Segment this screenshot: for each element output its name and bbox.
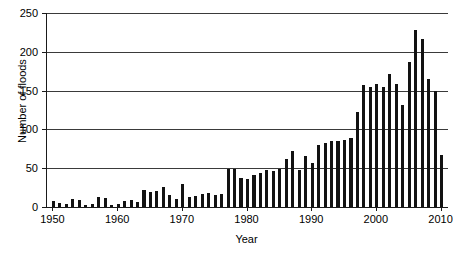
bar-1979 bbox=[239, 178, 242, 207]
bar-1998 bbox=[362, 85, 365, 207]
bar-1954 bbox=[78, 200, 81, 207]
bar-1965 bbox=[149, 192, 152, 207]
bar-1964 bbox=[142, 190, 145, 207]
x-tickmark-1970 bbox=[182, 207, 183, 211]
x-axis-tick-labels: 1950196019701980199020002010 bbox=[46, 207, 447, 227]
y-tick-label-250: 250 bbox=[20, 8, 38, 19]
bar-1975 bbox=[214, 195, 217, 207]
bar-1953 bbox=[71, 199, 74, 207]
x-tickmark-1960 bbox=[117, 207, 118, 211]
bar-2008 bbox=[427, 79, 430, 207]
bar-1984 bbox=[272, 171, 275, 207]
x-tick-label-1970: 1970 bbox=[170, 213, 194, 225]
bar-1996 bbox=[349, 138, 352, 207]
bar-1989 bbox=[304, 156, 307, 207]
plot-area bbox=[46, 13, 448, 207]
y-tick-label-200: 200 bbox=[20, 46, 38, 57]
bar-1993 bbox=[330, 141, 333, 207]
bar-1985 bbox=[278, 169, 281, 207]
bar-2009 bbox=[434, 91, 437, 207]
bar-1986 bbox=[285, 159, 288, 207]
bar-1973 bbox=[201, 194, 204, 207]
x-tickmark-2010 bbox=[441, 207, 442, 211]
bar-1999 bbox=[369, 87, 372, 207]
bar-1981 bbox=[252, 175, 255, 207]
x-tick-label-2000: 2000 bbox=[364, 213, 388, 225]
x-tick-label-1950: 1950 bbox=[40, 213, 64, 225]
bar-1997 bbox=[356, 112, 359, 207]
x-tickmark-1950 bbox=[52, 207, 53, 211]
bar-2010 bbox=[440, 155, 443, 207]
bar-1972 bbox=[194, 196, 197, 207]
x-axis-title: Year bbox=[46, 233, 447, 245]
bar-1958 bbox=[104, 198, 107, 207]
bar-1966 bbox=[155, 191, 158, 207]
bar-1969 bbox=[175, 199, 178, 207]
bar-1988 bbox=[298, 170, 301, 207]
x-tick-label-1990: 1990 bbox=[299, 213, 323, 225]
y-tick-label-50: 50 bbox=[26, 163, 38, 174]
x-tick-label-1980: 1980 bbox=[234, 213, 258, 225]
bar-2002 bbox=[388, 74, 391, 207]
bar-1968 bbox=[168, 195, 171, 207]
bar-2006 bbox=[414, 30, 417, 207]
bar-1971 bbox=[188, 197, 191, 207]
bar-2005 bbox=[408, 62, 411, 207]
bar-1995 bbox=[343, 140, 346, 207]
y-tick-label-0: 0 bbox=[32, 202, 38, 213]
bar-2001 bbox=[382, 87, 385, 207]
bar-1990 bbox=[311, 163, 314, 207]
x-tick-label-2010: 2010 bbox=[428, 213, 452, 225]
bar-1992 bbox=[324, 143, 327, 207]
x-tickmark-2000 bbox=[376, 207, 377, 211]
y-axis-tick-labels: 050100150200250 bbox=[0, 0, 42, 215]
x-tick-label-1960: 1960 bbox=[105, 213, 129, 225]
bar-1983 bbox=[265, 170, 268, 207]
bar-1970 bbox=[181, 184, 184, 207]
bar-1974 bbox=[207, 193, 210, 207]
x-tickmark-1990 bbox=[311, 207, 312, 211]
bar-series bbox=[47, 13, 448, 207]
bar-1978 bbox=[233, 169, 236, 207]
bar-1991 bbox=[317, 145, 320, 207]
bar-1976 bbox=[220, 194, 223, 207]
bar-1982 bbox=[259, 173, 262, 207]
y-tick-label-150: 150 bbox=[20, 85, 38, 96]
y-tick-label-100: 100 bbox=[20, 124, 38, 135]
bar-2004 bbox=[401, 105, 404, 207]
x-tickmark-1980 bbox=[247, 207, 248, 211]
bar-1967 bbox=[162, 187, 165, 207]
bar-1987 bbox=[291, 151, 294, 207]
bar-1957 bbox=[97, 197, 100, 207]
bar-2003 bbox=[395, 84, 398, 207]
bar-1962 bbox=[130, 200, 133, 207]
bar-1980 bbox=[246, 179, 249, 207]
bar-1994 bbox=[336, 141, 339, 207]
bar-1977 bbox=[227, 169, 230, 207]
bar-2000 bbox=[375, 84, 378, 207]
bar-2007 bbox=[421, 39, 424, 207]
